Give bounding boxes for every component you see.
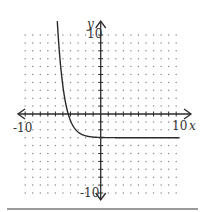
divider (7, 208, 198, 210)
y-axis (96, 21, 106, 200)
y-min-label: -10 (80, 186, 99, 200)
coordinate-plane: -10 10 x 10 y -10 (0, 0, 205, 212)
y-axis-label: y (86, 17, 94, 31)
x-axis (18, 109, 191, 119)
x-min-label: -10 (13, 121, 32, 135)
x-max-label: 10 (172, 119, 187, 133)
x-axis-label: x (189, 119, 196, 133)
function-curve (57, 21, 179, 138)
